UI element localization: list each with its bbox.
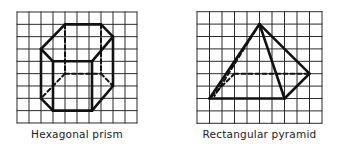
rectangular-pyramid-figure <box>197 12 322 124</box>
hexagonal-prism-caption: Hexagonal prism <box>17 128 137 140</box>
solid-edge <box>41 98 53 110</box>
rectangular-pyramid-caption: Rectangular pyramid <box>197 128 322 140</box>
solid-edge <box>101 24 113 36</box>
geometry-figures <box>0 0 340 146</box>
hexagonal-prism-figure <box>17 12 137 123</box>
solid-edge <box>41 49 53 61</box>
hexagonal-prism-grid <box>17 12 137 123</box>
hidden-edge <box>101 74 113 86</box>
